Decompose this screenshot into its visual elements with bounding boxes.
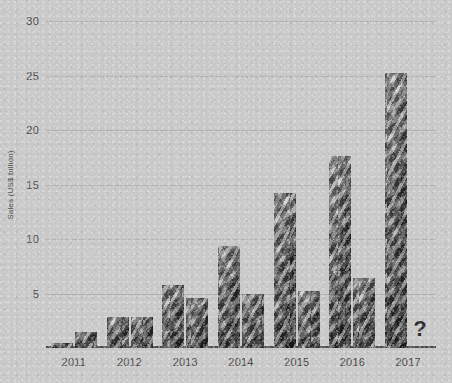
bar <box>186 298 208 348</box>
x-axis-tick-label: 2016 <box>340 356 365 368</box>
bar-chart: 51015202530201120122013201420152016?2017… <box>0 0 452 383</box>
question-mark-annotation: ? <box>413 318 426 340</box>
bar <box>162 285 184 348</box>
bar-group <box>269 21 325 348</box>
y-axis-tick-label: 15 <box>26 179 39 191</box>
bar <box>385 73 407 348</box>
y-axis-title: Sales (US$ billion) <box>6 150 15 220</box>
x-axis-tick-label: 2013 <box>173 356 198 368</box>
y-axis-tick-label: 10 <box>26 233 39 245</box>
bar-group: ? <box>380 21 436 348</box>
bar <box>131 317 153 348</box>
x-axis-tick-label: 2011 <box>62 356 86 368</box>
bar-group <box>46 21 102 348</box>
bar-group <box>213 21 269 348</box>
x-axis-tick-label: 2017 <box>396 356 421 368</box>
bar <box>242 294 264 349</box>
x-axis-tick-label: 2014 <box>228 356 253 368</box>
bar-group <box>157 21 213 348</box>
plot-area: 51015202530201120122013201420152016?2017 <box>46 21 436 348</box>
y-axis-tick-label: 25 <box>26 70 39 82</box>
bar <box>75 332 97 348</box>
x-axis-tick-label: 2015 <box>284 356 309 368</box>
y-axis-tick-label: 20 <box>26 124 39 136</box>
y-axis-tick-label: 5 <box>33 288 39 300</box>
bar <box>353 278 375 348</box>
bar-group <box>102 21 158 348</box>
bar <box>51 343 73 348</box>
bar <box>107 317 129 348</box>
y-axis-tick-label: 30 <box>26 15 39 27</box>
bar <box>298 291 320 348</box>
bar <box>218 246 240 348</box>
bar <box>274 193 296 348</box>
x-axis-tick-label: 2012 <box>117 356 142 368</box>
bar <box>329 156 351 348</box>
bar-group <box>325 21 381 348</box>
